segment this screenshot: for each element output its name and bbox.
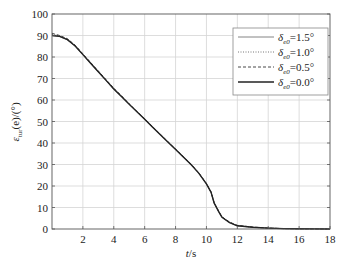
x-tick-labels: 24681012141618	[80, 233, 336, 245]
y-tick-label: 80	[37, 51, 49, 63]
y-tick-label: 100	[32, 8, 49, 20]
x-axis-label-unit: /s	[189, 247, 196, 259]
y-tick-label: 90	[37, 30, 49, 42]
x-tick-label: 12	[232, 233, 243, 245]
x-axis-label: t/s	[186, 247, 196, 259]
y-axis-label-unit: (e)/(°)	[9, 102, 22, 129]
legend: δe0=1.5°δe0=1.0°δe0=0.5°δe0=0.0°	[233, 28, 328, 95]
x-tick-label: 10	[201, 233, 213, 245]
y-tick-label: 10	[37, 202, 49, 214]
y-tick-label: 60	[37, 94, 49, 106]
x-tick-label: 4	[111, 233, 117, 245]
line-chart: 24681012141618 0102030405060708090100 t/…	[0, 0, 352, 268]
y-tick-label: 50	[37, 116, 49, 128]
x-tick-label: 16	[294, 233, 306, 245]
x-tick-label: 8	[173, 233, 179, 245]
y-tick-label: 0	[43, 223, 49, 235]
y-tick-label: 40	[37, 137, 49, 149]
x-tick-label: 2	[80, 233, 86, 245]
y-tick-label: 30	[37, 159, 49, 171]
x-tick-label: 14	[263, 233, 275, 245]
x-tick-label: 6	[142, 233, 148, 245]
y-tick-label: 70	[37, 73, 49, 85]
y-axis-label: εtur(e)/(°)	[9, 102, 24, 141]
y-tick-labels: 0102030405060708090100	[32, 8, 49, 235]
x-tick-label: 18	[325, 233, 337, 245]
y-tick-label: 20	[37, 180, 49, 192]
